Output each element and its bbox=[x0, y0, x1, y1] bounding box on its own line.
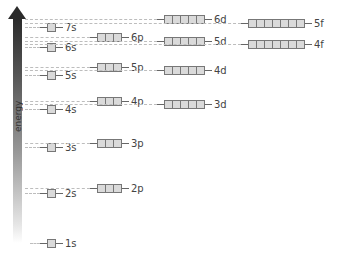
orbital-box bbox=[165, 67, 173, 74]
guide-line-5f bbox=[25, 23, 241, 24]
orbital-box bbox=[273, 20, 281, 27]
level-tick bbox=[157, 104, 164, 105]
orbital-label: 2p bbox=[131, 184, 144, 193]
level-tick bbox=[122, 101, 129, 102]
orbital-box bbox=[257, 20, 265, 27]
level-tick bbox=[40, 193, 47, 194]
level-tick bbox=[157, 41, 164, 42]
guide-line-2s bbox=[25, 193, 40, 194]
orbital-boxes bbox=[47, 239, 56, 248]
orbital-boxes bbox=[47, 105, 56, 114]
orbital-box bbox=[173, 67, 181, 74]
orbital-box bbox=[289, 41, 297, 48]
orbital-boxes bbox=[97, 139, 122, 148]
orbital-label: 5f bbox=[314, 19, 324, 28]
guide-line-6s bbox=[25, 47, 40, 48]
level-tick bbox=[241, 44, 248, 45]
orbital-box bbox=[189, 16, 197, 23]
orbital-label: 3s bbox=[65, 143, 77, 152]
orbital-box bbox=[181, 67, 189, 74]
level-tick bbox=[40, 147, 47, 148]
level-tick bbox=[90, 188, 97, 189]
orbital-box bbox=[114, 34, 121, 41]
guide-line-2p bbox=[25, 188, 90, 189]
orbital-boxes bbox=[248, 40, 305, 49]
orbital-label: 3p bbox=[131, 139, 144, 148]
orbital-7s: 7s bbox=[40, 23, 77, 32]
orbital-box bbox=[98, 185, 106, 192]
orbital-box bbox=[106, 185, 114, 192]
level-tick bbox=[90, 101, 97, 102]
level-tick bbox=[90, 143, 97, 144]
orbital-box bbox=[98, 34, 106, 41]
level-tick bbox=[157, 70, 164, 71]
orbital-box bbox=[165, 16, 173, 23]
orbital-label: 7s bbox=[65, 23, 77, 32]
orbital-box bbox=[114, 140, 121, 147]
level-tick bbox=[157, 19, 164, 20]
level-tick bbox=[205, 104, 212, 105]
guide-line-4p bbox=[25, 101, 90, 102]
level-tick bbox=[305, 23, 312, 24]
orbital-boxes bbox=[47, 23, 56, 32]
level-tick bbox=[205, 70, 212, 71]
orbital-box bbox=[265, 20, 273, 27]
orbital-boxes bbox=[47, 143, 56, 152]
orbital-boxes bbox=[164, 66, 205, 75]
level-tick bbox=[56, 193, 63, 194]
orbital-box bbox=[273, 41, 281, 48]
orbital-label: 2s bbox=[65, 189, 77, 198]
orbital-boxes bbox=[47, 71, 56, 80]
orbital-label: 5s bbox=[65, 71, 77, 80]
orbital-box bbox=[173, 101, 181, 108]
orbital-box bbox=[106, 34, 114, 41]
orbital-box bbox=[197, 67, 204, 74]
level-tick bbox=[56, 243, 63, 244]
orbital-box bbox=[297, 20, 304, 27]
guide-line-3p bbox=[25, 143, 90, 144]
level-tick bbox=[241, 23, 248, 24]
orbital-4d: 4d bbox=[157, 66, 227, 75]
orbital-3p: 3p bbox=[90, 139, 144, 148]
orbital-label: 4s bbox=[65, 105, 77, 114]
guide-line-4f bbox=[25, 44, 241, 45]
guide-line-6d bbox=[25, 19, 157, 20]
guide-line-3d bbox=[25, 104, 157, 105]
orbital-4f: 4f bbox=[241, 40, 324, 49]
orbital-label: 3d bbox=[214, 100, 227, 109]
orbital-box bbox=[281, 41, 289, 48]
energy-axis-label: energy bbox=[10, 96, 26, 136]
orbital-3s: 3s bbox=[40, 143, 77, 152]
level-tick bbox=[56, 47, 63, 48]
level-tick bbox=[122, 37, 129, 38]
orbital-boxes bbox=[248, 19, 305, 28]
level-tick bbox=[205, 19, 212, 20]
orbital-1s: 1s bbox=[40, 239, 77, 248]
level-tick bbox=[56, 75, 63, 76]
orbital-5s: 5s bbox=[40, 71, 77, 80]
guide-line-3s bbox=[25, 147, 40, 148]
orbital-boxes bbox=[164, 100, 205, 109]
orbital-2p: 2p bbox=[90, 184, 144, 193]
orbital-box bbox=[48, 144, 55, 151]
orbital-label: 4d bbox=[214, 66, 227, 75]
orbital-boxes bbox=[47, 189, 56, 198]
level-tick bbox=[40, 75, 47, 76]
level-tick bbox=[40, 109, 47, 110]
level-tick bbox=[205, 41, 212, 42]
orbital-box bbox=[197, 16, 204, 23]
orbital-box bbox=[173, 16, 181, 23]
orbital-3d: 3d bbox=[157, 100, 227, 109]
level-tick bbox=[56, 27, 63, 28]
orbital-box bbox=[181, 16, 189, 23]
orbital-box bbox=[48, 190, 55, 197]
orbital-box bbox=[197, 101, 204, 108]
orbital-box bbox=[181, 101, 189, 108]
orbital-box bbox=[265, 41, 273, 48]
orbital-box bbox=[48, 44, 55, 51]
orbital-box bbox=[289, 20, 297, 27]
orbital-label: 4f bbox=[314, 40, 324, 49]
orbital-box bbox=[189, 101, 197, 108]
orbital-box bbox=[48, 24, 55, 31]
orbital-box bbox=[98, 140, 106, 147]
